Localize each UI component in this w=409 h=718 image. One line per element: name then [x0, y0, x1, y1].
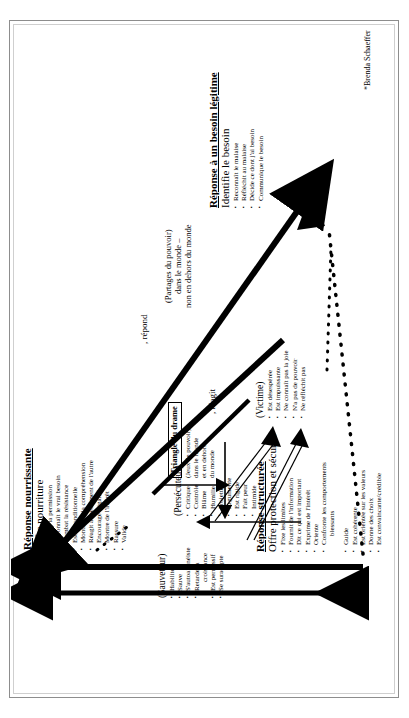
verb-repond: , répond: [139, 315, 149, 345]
list-item: Encourage l'égalité: [95, 448, 103, 550]
list-item: Montre de l'intérêt: [103, 448, 111, 550]
response-structuree-list: Fixe les limites Fournit de l'informatio…: [279, 433, 383, 552]
list-item: Exprime de l'intérêt: [304, 433, 312, 552]
list-item: Guide: [342, 433, 350, 552]
list-item: Confronte les comportements: [320, 433, 328, 552]
response-structuree: Réponse structurée Offre protection et s…: [254, 433, 383, 552]
list-item: Est impuissante: [274, 350, 282, 418]
response-nourrissante-list: Donne la permission Reconnaît le vrai be…: [46, 448, 128, 550]
list-item: Montre de la compréhension: [79, 448, 87, 550]
scanned-page: Réponse nourrissante Offre nourriture Do…: [0, 0, 409, 718]
drama-triangle-sub-1: dans le monde: [192, 402, 200, 478]
response-nourrissante: Réponse nourrissante Offre nourriture Do…: [21, 448, 128, 550]
list-item: Fait peur: [241, 465, 249, 516]
role-sauveteur-name: (Sauveteur): [157, 547, 167, 598]
list-item: Réagit au sentiment de l'autre: [87, 448, 95, 550]
list-item: Argumente: [225, 465, 233, 516]
besoin-vertex-arrow: [297, 192, 325, 230]
response-besoin-title: Réponse à un besoin légitime: [207, 72, 219, 208]
diagram-viewport: Réponse nourrissante Offre nourriture Do…: [11, 22, 397, 696]
list-item: Habilite: [168, 547, 176, 598]
power-note-line-1: dans le monde –: [173, 224, 183, 308]
list-item: Fournit de l'information: [287, 433, 295, 552]
list-item: Intimide: [250, 465, 258, 516]
list-item: Communique le besoin: [257, 72, 265, 208]
role-sauveteur-list: Habilite Sauve S'autoaliénéiste Retarde …: [168, 547, 225, 598]
list-item: Se suradapte: [217, 547, 225, 598]
list-item: Valide: [120, 448, 128, 550]
role-victime-name: (Victime): [255, 350, 265, 418]
credit: *Brenda Schaeffer: [363, 30, 372, 90]
list-item: S'autoaliénéiste: [184, 547, 192, 598]
response-besoin-subtitle: Identifie le besoin: [219, 72, 231, 208]
response-besoin-legitime: Réponse à un besoin légitime Identifie l…: [207, 72, 265, 208]
list-item: Rassure: [112, 448, 120, 550]
list-item: Oriente: [312, 433, 320, 552]
list-item: N'a pas de pouvoir: [291, 350, 299, 418]
list-item: Ne réfléchit pas: [299, 350, 307, 418]
power-note-line-0: (Partages du pouvoir): [163, 224, 173, 308]
list-item: Sauve: [176, 547, 184, 598]
role-victime: (Victime) Est désespérée Est impuissante…: [255, 350, 307, 418]
diagram-canvas: Réponse nourrissante Offre nourriture Do…: [11, 22, 397, 696]
list-item: Projette: [217, 465, 225, 516]
list-item: Est rigide: [233, 465, 241, 516]
list-item: Ne connaît pas la joie: [282, 350, 290, 418]
list-item: Est permissif: [209, 547, 217, 598]
list-item: Donne la permission: [46, 448, 54, 550]
list-item-continuation: blessants: [328, 433, 336, 552]
list-item: Est convaincante/crédible: [375, 433, 383, 552]
list-item: Combat la résistance: [62, 448, 70, 550]
response-nourrissante-title: Réponse nourrissante: [21, 448, 33, 550]
role-sauveteur: (Sauveteur) Habilite Sauve S'autoaliénéi…: [157, 547, 225, 598]
list-item: Donne des choix: [367, 433, 375, 552]
list-item: Est inconditionnelle: [71, 448, 79, 550]
list-item: Décide ce dont j'ai besoin: [248, 72, 256, 208]
response-structuree-subtitle: Offre protection et sécurité: [266, 433, 278, 552]
power-note-line-2: non en dehors du monde: [183, 224, 193, 308]
power-note: (Partages du pouvoir) dans le monde – no…: [163, 224, 193, 308]
verb-reagit: , réagit: [207, 389, 217, 414]
list-item: Dit ce qui est important: [295, 433, 303, 552]
role-victime-list: Est désespérée Est impuissante Ne connaî…: [266, 350, 307, 418]
response-besoin-list: Reconnaît le malaise Réfléchit au malais…: [232, 72, 265, 208]
list-item: Reconnaît le vrai besoin: [54, 448, 62, 550]
drama-triangle-label-text: Triangle du drame: [168, 402, 182, 478]
list-item: Réfléchit au malaise: [240, 72, 248, 208]
list-item: Reconnaît le malaise: [232, 72, 240, 208]
list-item: Est orientée sur les valeurs: [359, 433, 367, 552]
list-item: Est désespérée: [266, 350, 274, 418]
list-item: Est cohérente: [351, 433, 359, 552]
list-item: Fixe les limites: [279, 433, 287, 552]
response-nourrissante-subtitle: Offre nourriture: [33, 448, 45, 550]
list-item: Retarde la: [193, 547, 201, 598]
drama-triangle-sub-0: (Jeux de pouvoir): [184, 402, 192, 478]
list-item-continuation: croissance: [201, 547, 209, 598]
